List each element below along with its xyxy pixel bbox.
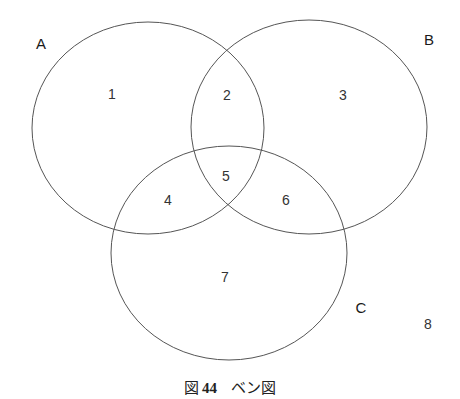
- figure-caption: 図44ベン図: [0, 376, 460, 397]
- region-1-label: 1: [108, 86, 116, 102]
- set-a-label: A: [36, 35, 46, 52]
- set-c-label: C: [356, 299, 367, 316]
- region-3-label: 3: [339, 87, 347, 103]
- region-6-label: 6: [282, 192, 290, 208]
- venn-diagram: [0, 0, 460, 399]
- set-b-label: B: [424, 31, 434, 48]
- set-a-circle: [32, 22, 264, 234]
- region-4-label: 4: [164, 192, 172, 208]
- region-7-label: 7: [221, 269, 229, 285]
- caption-number: 44: [202, 380, 217, 396]
- region-5-label: 5: [222, 168, 230, 184]
- region-2-label: 2: [223, 87, 231, 103]
- region-8-label: 8: [424, 316, 432, 332]
- caption-prefix: 図: [184, 380, 199, 396]
- set-b-circle: [191, 20, 427, 234]
- caption-title: ベン図: [231, 380, 276, 396]
